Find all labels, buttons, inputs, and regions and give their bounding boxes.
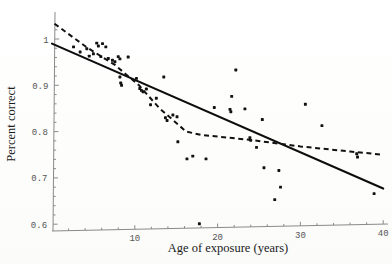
data-point [356,156,359,159]
x-axis-title: Age of exposure (years) [168,241,288,255]
data-point [135,77,138,80]
data-point [99,55,102,58]
regression-line-solid [52,44,383,189]
data-point [97,45,100,48]
data-point [279,186,282,189]
data-point [373,192,376,195]
data-point [149,103,152,106]
x-tick-label-30: 30 [295,231,306,241]
data-point [92,52,95,55]
data-point [234,69,237,72]
data-point [248,136,251,139]
data-point [229,110,232,113]
data-point [320,124,323,127]
data-point [127,56,130,59]
data-point [118,57,121,60]
data-point [355,152,358,155]
data-point [191,155,194,158]
data-point [107,57,110,60]
data-point [230,95,233,98]
data-point [145,88,148,91]
data-point [79,51,82,54]
figure-container: 10203040 0.60.70.80.91 Age of exposure (… [0,0,392,264]
y-axis-title: Percent correct [4,86,18,162]
data-point [243,107,246,110]
data-point [95,42,98,45]
x-axis-line [52,224,388,231]
data-point [176,140,179,143]
data-point [186,157,189,160]
data-point [249,139,252,142]
data-point [261,118,264,121]
data-point [263,166,266,169]
data-point [101,42,104,45]
y-tick-label-0.7: 0.7 [31,174,47,184]
x-tick-label-10: 10 [129,234,140,244]
y-tick-label-1: 1 [43,36,48,46]
data-point [304,103,307,106]
data-point [120,84,123,87]
scatter-plot: 10203040 0.60.70.80.91 Age of exposure (… [0,0,392,264]
data-point [273,198,276,201]
data-point [88,55,91,58]
y-tick-label-0.9: 0.9 [32,82,48,92]
data-points-group [72,42,375,225]
y-tick-labels: 0.60.70.80.91 [31,36,49,231]
data-point [113,60,116,63]
data-point [213,106,216,109]
data-point [166,119,169,122]
x-tick-label-40: 40 [378,229,389,239]
data-point [176,115,179,118]
data-point [171,113,174,116]
y-tick-label-0.8: 0.8 [32,128,48,138]
data-point [85,47,88,50]
data-point [205,157,208,160]
data-point [104,45,107,48]
data-point [198,222,201,225]
data-point [118,76,121,79]
data-point [162,76,165,79]
data-point [155,97,158,100]
data-point [72,45,75,48]
data-point [164,116,167,119]
data-point [111,59,114,62]
data-point [142,90,145,93]
data-point [255,146,258,149]
y-tick-label-0.6: 0.6 [31,221,47,231]
data-point [277,169,280,172]
